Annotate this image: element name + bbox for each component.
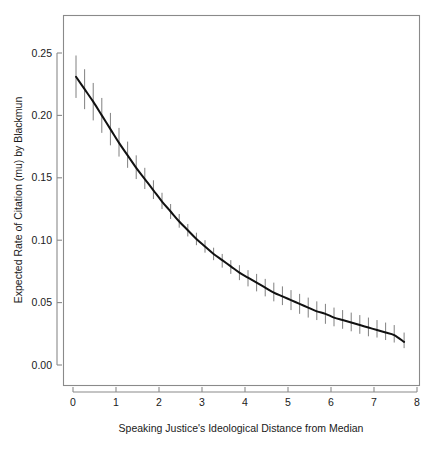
- x-tick-label: 0: [70, 396, 76, 408]
- y-tick-label: 0.00: [32, 359, 53, 371]
- plot-canvas: 0.000.050.100.150.200.25 012345678 Speak…: [0, 0, 440, 449]
- y-tick-label: 0.25: [32, 47, 53, 59]
- x-tick-label: 2: [156, 396, 162, 408]
- x-tick-label: 6: [328, 396, 334, 408]
- x-tick-label: 5: [285, 396, 291, 408]
- x-tick-label: 7: [371, 396, 377, 408]
- y-tick-label: 0.10: [32, 234, 53, 246]
- y-tick-label: 0.15: [32, 171, 53, 183]
- x-tick-label: 8: [414, 396, 420, 408]
- x-tick-label: 4: [242, 396, 248, 408]
- y-tick-label: 0.05: [32, 296, 53, 308]
- y-axis-title: Expected Rate of Citation (mu) by Blackm…: [12, 97, 24, 304]
- x-tick-label: 1: [113, 396, 119, 408]
- x-tick-label: 3: [199, 396, 205, 408]
- x-axis-title: Speaking Justice's Ideological Distance …: [119, 422, 364, 434]
- y-tick-label: 0.20: [32, 109, 53, 121]
- chart-figure: 0.000.050.100.150.200.25 012345678 Speak…: [0, 0, 440, 449]
- figure-background: [0, 0, 440, 449]
